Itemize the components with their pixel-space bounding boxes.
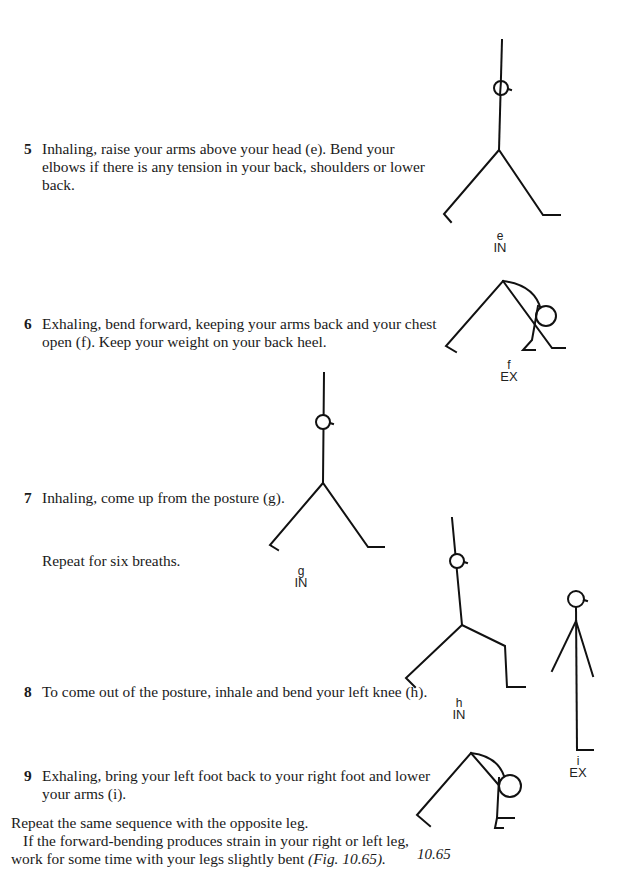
step-number: 5 — [24, 140, 42, 158]
closing-paragraph: Repeat the same sequence with the opposi… — [11, 814, 411, 868]
stick-figure-f — [446, 281, 565, 352]
step-text: Exhaling, bend forward, keeping your arm… — [42, 315, 436, 350]
step-text: Inhaling, raise your arms above your hea… — [42, 140, 425, 193]
step-number: 9 — [24, 767, 42, 785]
step-number: 7 — [24, 489, 42, 507]
closing-line-1: Repeat the same sequence with the opposi… — [11, 814, 411, 832]
closing-line-2: If the forward-bending produces strain i… — [11, 832, 411, 868]
figure-reference: (Fig. 10.65). — [308, 850, 386, 867]
step-number: 8 — [24, 683, 42, 701]
figure-label-g: g IN — [286, 565, 316, 589]
breath-label: IN — [494, 240, 507, 255]
breath-label: IN — [295, 575, 308, 590]
stick-figure-h — [406, 518, 525, 687]
step-6: 6Exhaling, bend forward, keeping your ar… — [24, 315, 437, 351]
step-5: 5Inhaling, raise your arms above your he… — [24, 140, 437, 194]
figure-label-h: h IN — [444, 697, 474, 721]
figure-label-f: f EX — [494, 359, 524, 383]
step-text: Exhaling, bring your left foot back to y… — [42, 767, 430, 802]
step-7: 7Inhaling, come up from the posture (g). — [24, 489, 302, 507]
step-text: To come out of the posture, inhale and b… — [42, 683, 427, 700]
breath-label: EX — [500, 369, 517, 384]
stick-figure-g — [270, 373, 384, 550]
breath-label: EX — [569, 765, 586, 780]
step-text: Inhaling, come up from the posture (g). — [42, 489, 285, 506]
breath-label: IN — [453, 707, 466, 722]
step-number: 6 — [24, 315, 42, 333]
step-8: 8To come out of the posture, inhale and … — [24, 683, 442, 701]
stick-figure-i — [552, 591, 593, 750]
step-9: 9Exhaling, bring your left foot back to … — [24, 767, 437, 803]
repeat-note: Repeat for six breaths. — [42, 552, 262, 570]
illustrations — [0, 0, 626, 877]
figure-label-e: e IN — [485, 230, 515, 254]
stick-figure-e — [444, 40, 560, 222]
figure-label-i: i EX — [563, 755, 593, 779]
figure-caption: 10.65 — [417, 846, 451, 863]
